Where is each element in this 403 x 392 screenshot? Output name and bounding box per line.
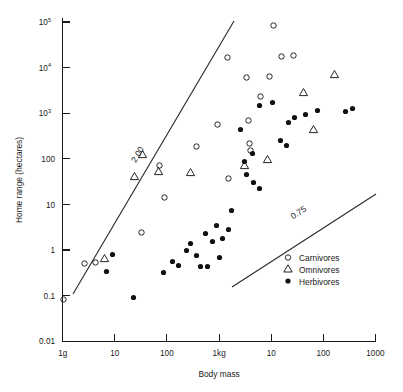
scatter-plot: 105 104 103 100 10 1 0.1 0.01 1g 10 100 … [0,0,403,392]
data-point [93,260,98,265]
data-point [203,231,208,236]
data-point [303,112,308,117]
y-axis-title: Home range (hectares) [14,137,24,223]
data-point [291,53,296,58]
data-point [130,173,138,180]
y-tick-label-0p1: 0.1 [44,292,56,301]
data-point [299,89,307,96]
data-point [251,180,256,185]
data-point [238,127,243,132]
data-point [315,108,320,113]
x-tick-label-1g: 1g [58,349,68,358]
legend-label-herbivores: Herbivores [299,277,340,287]
x-tick-label-10g: 10 [110,349,120,358]
data-point [170,259,175,264]
data-point [267,74,272,79]
data-point [104,269,109,274]
data-point [257,103,262,108]
legend-label-omnivores: Omnivores [299,265,340,275]
x-axis-ticks [63,334,376,342]
data-point [278,138,283,143]
y-axis-tick-labels: 105 104 103 100 10 1 0.1 0.01 [39,17,56,347]
data-point [215,122,220,127]
legend-marker-carnivores-open-circle-icon [285,255,290,260]
series-carnivores [61,23,296,302]
data-point [270,100,275,105]
data-point [214,223,219,228]
data-point [279,54,284,59]
data-point [184,248,189,253]
series-omnivores [100,71,338,262]
data-point [82,261,87,266]
x-tick-label-1kg: 1kg [212,349,226,358]
data-point [309,126,317,133]
y-tick-label-10p3: 103 [39,108,51,119]
data-point [157,163,162,168]
y-tick-label-100: 100 [41,155,55,164]
data-point [226,176,231,181]
data-point [244,172,249,177]
x-axis-tick-labels: 1g 10 100 1kg 10 100 1000 [58,349,385,358]
y-tick-label-10: 10 [46,201,56,210]
chart-figure: 105 104 103 100 10 1 0.1 0.01 1g 10 100 … [0,0,403,392]
data-point [286,120,291,125]
x-tick-label-100kg: 100 [316,349,330,358]
data-point [271,23,276,28]
data-point [210,239,215,244]
data-point [242,159,247,164]
data-point [186,169,194,176]
x-tick-label-10kg: 10 [267,349,277,358]
legend-marker-omnivores-open-triangle-icon [284,265,292,272]
x-axis-title: Body mass [198,369,239,379]
data-point [330,71,338,78]
y-tick-label-0p01: 0.01 [39,337,55,346]
data-point [220,236,225,241]
y-tick-label-1: 1 [50,246,55,255]
legend-label-carnivores: Carnivores [299,253,340,263]
data-point [250,151,255,156]
data-point [176,263,181,268]
data-point [162,195,167,200]
legend-marker-herbivores-filled-circle-icon [285,278,290,283]
data-point [343,109,348,114]
slope-line-2p00 [73,21,234,294]
slope-annotation-2p00: 2.00 [129,145,146,165]
data-point [205,264,210,269]
chart-legend: Carnivores Omnivores Herbivores [284,253,340,287]
data-point [258,94,263,99]
y-tick-label-10p5: 105 [39,17,51,28]
data-point [292,115,297,120]
data-point [194,253,199,258]
data-point [246,118,251,123]
data-point [284,143,289,148]
data-point [100,255,108,262]
data-point [154,168,162,175]
slope-annotation-0p75: 0.75 [289,204,309,222]
y-axis-ticks [63,22,71,341]
data-point [194,144,199,149]
y-tick-label-10p4: 104 [39,62,51,73]
data-point [247,141,252,146]
data-point [350,106,355,111]
data-point [188,241,193,246]
x-tick-label-100g: 100 [160,349,174,358]
data-point [131,295,136,300]
data-point [257,186,262,191]
data-point [161,270,166,275]
data-point [244,75,249,80]
data-point [139,230,144,235]
data-point [198,264,203,269]
data-point [61,297,66,302]
data-point [225,55,230,60]
axis-spines [63,18,376,342]
data-point [229,208,234,213]
data-point [217,255,222,260]
data-point [226,227,231,232]
x-tick-label-1000kg: 1000 [366,349,385,358]
data-point [263,156,271,163]
data-point [110,252,115,257]
